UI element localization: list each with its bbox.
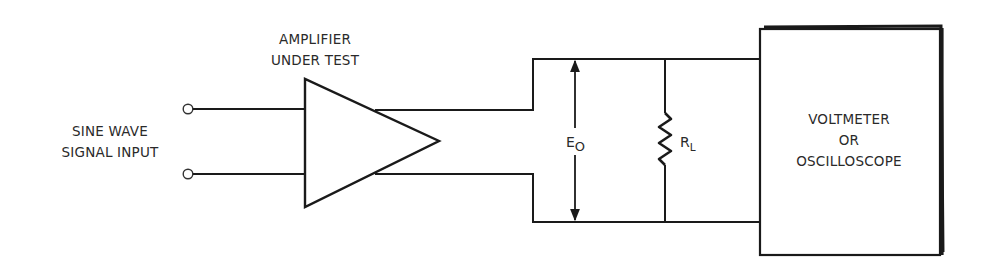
rl-subscript: L: [690, 141, 696, 153]
rl-symbol: R: [680, 134, 690, 150]
rl-label: RL: [680, 134, 696, 153]
eo-label: EO: [566, 134, 585, 154]
input-terminal-top: [183, 104, 193, 114]
input-label-line1: SINE WAVE: [72, 123, 148, 139]
instrument-label-line2: OR: [839, 132, 859, 148]
amplifier-triangle-icon: [305, 79, 439, 207]
amplifier-test-diagram: SINE WAVE SIGNAL INPUT AMPLIFIER UNDER T…: [0, 0, 989, 268]
instrument-label-line1: VOLTMETER: [808, 111, 890, 127]
amplifier-label-line1: AMPLIFIER: [279, 31, 351, 47]
load-resistor-icon: [659, 113, 671, 165]
input-label-line2: SIGNAL INPUT: [62, 144, 159, 160]
bottom-rail: [533, 174, 761, 222]
eo-subscript: O: [575, 139, 585, 154]
instrument-label-line3: OSCILLOSCOPE: [796, 153, 901, 169]
input-terminal-bottom: [183, 169, 193, 179]
eo-symbol: E: [566, 134, 575, 150]
top-rail: [533, 59, 761, 110]
amplifier-label-line2: UNDER TEST: [271, 52, 360, 68]
